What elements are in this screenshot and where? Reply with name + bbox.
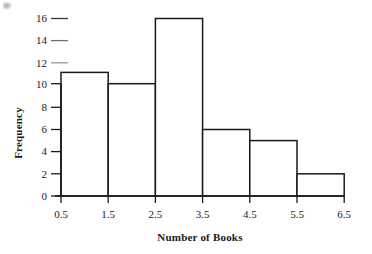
histogram-bar <box>155 19 202 197</box>
x-tick-label: 0.5 <box>54 208 68 220</box>
x-axis-title: Number of Books <box>157 231 243 243</box>
x-tick-label: 5.5 <box>290 208 304 220</box>
histogram-bar <box>61 72 108 196</box>
histogram-bar <box>108 84 155 196</box>
y-tick-label: 14 <box>36 34 48 46</box>
y-tick-label: 2 <box>42 168 48 180</box>
x-tick-marks-group <box>61 196 344 203</box>
histogram-bar <box>297 174 344 196</box>
histogram-figure: 0 2 4 6 8 10 12 14 16 0.5 1.5 2.5 3.5 4.… <box>0 0 372 254</box>
y-tick-label: 16 <box>36 12 48 24</box>
x-tick-label: 4.5 <box>243 208 257 220</box>
histogram-bar <box>250 141 297 196</box>
y-tick-label: 12 <box>36 57 47 69</box>
x-tick-label: 3.5 <box>196 208 210 220</box>
x-tick-label: 1.5 <box>101 208 115 220</box>
y-axis-title: Frequency <box>12 107 24 159</box>
y-tick-label: 6 <box>42 123 48 135</box>
x-tick-label: 2.5 <box>149 208 163 220</box>
y-tick-label: 4 <box>42 145 48 157</box>
histogram-plot: 0 2 4 6 8 10 12 14 16 0.5 1.5 2.5 3.5 4.… <box>0 0 372 254</box>
y-tick-label: 10 <box>36 78 48 90</box>
bars-group <box>61 19 344 197</box>
histogram-bar <box>203 130 250 197</box>
y-tick-labels-group: 0 2 4 6 8 10 12 14 16 <box>36 12 48 202</box>
y-tick-label: 8 <box>42 101 48 113</box>
y-tick-label: 0 <box>42 190 48 202</box>
x-tick-label: 6.5 <box>337 208 351 220</box>
x-tick-labels-group: 0.5 1.5 2.5 3.5 4.5 5.5 6.5 <box>54 208 351 220</box>
